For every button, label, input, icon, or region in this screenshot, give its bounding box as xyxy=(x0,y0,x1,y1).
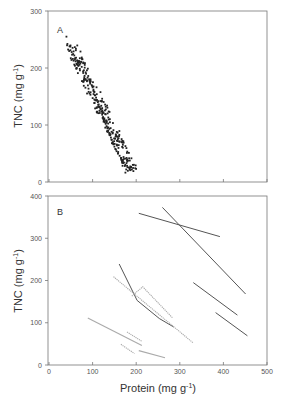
scatter-point xyxy=(67,43,69,45)
scatter-point xyxy=(87,84,89,86)
scatter-point xyxy=(86,80,88,82)
scatter-point xyxy=(109,111,111,113)
series-line-4 xyxy=(193,283,237,316)
y-tick-label: 100 xyxy=(30,319,42,326)
scatter-point xyxy=(78,65,80,67)
scatter-point xyxy=(106,126,108,128)
scatter-point xyxy=(107,117,109,119)
series-line-11 xyxy=(139,351,165,358)
scatter-point xyxy=(94,94,96,96)
scatter-point xyxy=(114,143,116,145)
scatter-point xyxy=(119,155,121,157)
scatter-point xyxy=(125,169,127,171)
scatter-point xyxy=(108,128,110,130)
scatter-point xyxy=(116,131,118,133)
scatter-point xyxy=(98,106,100,108)
y-tick-label: 0 xyxy=(38,179,42,186)
scatter-point xyxy=(114,138,116,140)
panel-a-x-ticks xyxy=(49,179,267,182)
scatter-point xyxy=(74,46,76,48)
scatter-point xyxy=(104,113,106,115)
scatter-point xyxy=(90,78,92,80)
scatter-point xyxy=(126,161,128,163)
scatter-point xyxy=(99,112,101,114)
scatter-point xyxy=(92,97,94,99)
scatter-point xyxy=(88,91,90,93)
scatter-point xyxy=(106,105,108,107)
y-tick-label: 200 xyxy=(30,65,42,72)
scatter-point xyxy=(84,62,86,64)
x-tick-label: 300 xyxy=(174,368,186,375)
scatter-point xyxy=(90,94,92,96)
scatter-point xyxy=(109,121,111,123)
scatter-point xyxy=(113,129,115,131)
scatter-point xyxy=(96,86,98,88)
scatter-point xyxy=(122,142,124,144)
x-tick-label: 500 xyxy=(261,368,273,375)
scatter-point xyxy=(82,70,84,72)
scatter-point xyxy=(129,169,131,171)
scatter-point xyxy=(92,81,94,83)
scatter-point xyxy=(105,119,107,121)
scatter-point xyxy=(90,91,92,93)
panel-b-frame xyxy=(48,196,267,365)
scatter-point xyxy=(88,88,90,90)
scatter-point xyxy=(121,146,123,148)
y-tick-label: 300 xyxy=(30,235,42,242)
scatter-point xyxy=(118,130,120,132)
scatter-point xyxy=(104,127,106,129)
panel-a-y-ticks: 0100200300 xyxy=(30,8,48,186)
scatter-point xyxy=(76,67,78,69)
scatter-point xyxy=(120,157,122,159)
scatter-point xyxy=(121,159,123,161)
x-tick-label: 400 xyxy=(218,368,230,375)
scatter-point xyxy=(123,156,125,158)
scatter-point xyxy=(111,139,113,141)
scatter-point xyxy=(100,91,102,93)
y-tick-label: 0 xyxy=(38,362,42,369)
scatter-point xyxy=(133,164,135,166)
scatter-point xyxy=(75,48,77,50)
scatter-point xyxy=(110,137,112,139)
scatter-point xyxy=(112,132,114,134)
panel-a-label: A xyxy=(57,25,63,35)
scatter-point xyxy=(96,93,98,95)
scatter-point xyxy=(85,87,87,89)
scatter-point xyxy=(79,57,81,59)
scatter-point xyxy=(82,72,84,74)
scatter-point xyxy=(112,143,114,145)
series-line-9 xyxy=(127,332,142,341)
scatter-point xyxy=(118,137,120,139)
scatter-point xyxy=(115,149,117,151)
scatter-point xyxy=(109,118,111,120)
x-tick-label: 200 xyxy=(130,368,142,375)
panel-b-lines xyxy=(88,207,248,357)
scatter-point xyxy=(116,144,118,146)
series-line-5 xyxy=(216,313,248,336)
scatter-point xyxy=(114,146,116,148)
scatter-point xyxy=(128,152,130,154)
scatter-point xyxy=(71,51,73,53)
panel-b-label: B xyxy=(57,207,63,217)
scatter-point xyxy=(117,140,119,142)
scatter-point xyxy=(125,145,127,147)
scatter-point xyxy=(89,83,91,85)
series-line-10 xyxy=(121,344,135,353)
scatter-point xyxy=(101,100,103,102)
scatter-point xyxy=(107,130,109,132)
scatter-point xyxy=(83,80,85,82)
panel-b: B 0100200300400 0100200300400500 TNC (mg… xyxy=(12,193,273,395)
scatter-point xyxy=(104,121,106,123)
scatter-point xyxy=(96,111,98,113)
scatter-point xyxy=(99,110,101,112)
scatter-point xyxy=(130,166,132,168)
scatter-point xyxy=(126,158,128,160)
scatter-point xyxy=(78,60,80,62)
scatter-point xyxy=(128,157,130,159)
scatter-point xyxy=(121,138,123,140)
scatter-point xyxy=(70,57,72,59)
panel-b-x-ticks: 0100200300400500 xyxy=(47,362,273,375)
panel-b-y-ticks: 0100200300400 xyxy=(30,193,48,369)
scatter-point xyxy=(84,67,86,69)
panel-b-y-axis-label: TNC (mg g-1) xyxy=(12,249,24,313)
